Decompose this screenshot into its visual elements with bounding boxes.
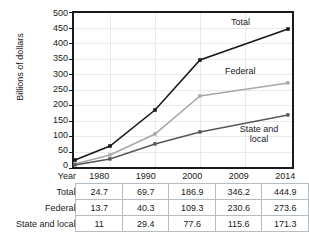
series-label-state-and-local: State and local: [233, 124, 285, 144]
table-row-header: State and local: [0, 216, 76, 232]
line-chart: Billions of dollars 500 450 400 350 300 …: [0, 0, 309, 178]
chart-page: Billions of dollars 500 450 400 350 300 …: [0, 0, 309, 245]
table-row-years: Year 1980 1990 2000 2009 2014: [0, 168, 309, 184]
table-row-header: Total: [0, 184, 76, 200]
table-cell: 115.6: [215, 216, 262, 232]
table-cell: 230.6: [215, 200, 262, 216]
table-cell: 40.3: [122, 200, 169, 216]
x-tick-label: 2000: [169, 168, 216, 184]
table-cell: 11: [76, 216, 123, 232]
table-cell: 69.7: [122, 184, 169, 200]
x-tick-label: 2009: [215, 168, 262, 184]
table-cell: 77.6: [169, 216, 216, 232]
table-cell: 109.3: [169, 200, 216, 216]
series-label-total: Total: [231, 17, 250, 27]
table-row: Total 24.7 69.7 186.9 346.2 444.9: [0, 184, 309, 200]
x-axis-title: Year: [0, 168, 76, 184]
gridlines: [73, 12, 293, 168]
table-cell: 186.9: [169, 184, 216, 200]
table-cell: 29.4: [122, 216, 169, 232]
table-cell: 444.9: [262, 184, 309, 200]
table-cell: 24.7: [76, 184, 123, 200]
table-row: Federal 13.7 40.3 109.3 230.6 273.6: [0, 200, 309, 216]
table-cell: 13.7: [76, 200, 123, 216]
table-cell: 171.3: [262, 216, 309, 232]
table-row: State and local 11 29.4 77.6 115.6 171.3: [0, 216, 309, 232]
chart-plot-svg: [0, 0, 309, 178]
data-table: Year 1980 1990 2000 2009 2014 Total 24.7…: [0, 168, 309, 232]
table-cell: 273.6: [262, 200, 309, 216]
series-label-state-and-local-line2: local: [250, 134, 269, 144]
series-label-state-and-local-line1: State and: [240, 124, 279, 134]
x-tick-label: 1980: [76, 168, 123, 184]
table-cell: 346.2: [215, 184, 262, 200]
x-tick-label: 2014: [262, 168, 309, 184]
table-row-header: Federal: [0, 200, 76, 216]
x-tick-label: 1990: [122, 168, 169, 184]
series-label-federal: Federal: [225, 66, 256, 76]
